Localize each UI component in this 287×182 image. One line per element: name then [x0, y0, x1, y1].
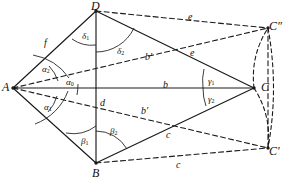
side-d: d — [100, 98, 105, 108]
angle-alpha-0: α0 — [66, 78, 74, 88]
dashed-edge-A-C-double-prime — [13, 28, 268, 88]
arc-beta-1 — [66, 126, 96, 134]
vertex-label-C1: C′ — [269, 145, 280, 157]
vertex-dot-B — [94, 161, 97, 164]
angle-alpha-2: α2 — [42, 65, 50, 75]
vertex-label-A: A — [2, 81, 9, 93]
angle-delta-1: δ1 — [82, 32, 89, 42]
vertex-label-D: D — [91, 0, 100, 12]
geometry-figure: ABCDC″C′fdbb′b′eeccα2α0α1δ1δ2β1β2γ1γ2 — [0, 0, 287, 182]
arc-delta-2 — [96, 28, 134, 52]
vertex-label-C: C — [261, 81, 269, 93]
dashed-edges-layer — [13, 11, 268, 163]
arc-alpha-2b — [33, 55, 69, 78]
figure-canvas — [0, 0, 287, 182]
side-b-prime-upper: b′ — [145, 52, 152, 62]
side-c-inner: c — [166, 130, 170, 140]
angle-alpha-1: α1 — [44, 103, 52, 113]
side-e-outer: e — [188, 12, 192, 22]
solid-edges-layer — [13, 11, 254, 163]
arc-gamma-2 — [203, 88, 206, 106]
arc-alpha-0 — [77, 84, 78, 95]
edge-A-D — [13, 11, 96, 88]
vertex-label-C2: C″ — [269, 20, 282, 32]
side-c-outer: c — [176, 160, 180, 170]
side-b: b — [163, 80, 168, 90]
angle-gamma-1: γ1 — [208, 77, 215, 87]
vertex-label-B: B — [92, 167, 99, 179]
edge-A-B — [13, 88, 96, 163]
dashed-edge-D-C-double-prime — [96, 11, 268, 28]
vertex-dot-A — [11, 86, 14, 89]
side-e-inner: e — [190, 48, 194, 58]
side-f: f — [44, 38, 47, 48]
angle-beta-1: β1 — [81, 137, 88, 147]
angle-delta-2: δ2 — [117, 47, 124, 57]
arc-C-to-C-prime — [254, 88, 269, 148]
angle-beta-2: β2 — [110, 127, 117, 137]
angle-gamma-2: γ2 — [208, 95, 215, 105]
arc-gamma-1 — [203, 69, 204, 88]
dashed-edge-A-C-prime — [13, 88, 268, 148]
arc-C-to-C-double-prime — [253, 28, 268, 88]
side-b-prime-lower: b′ — [141, 106, 148, 116]
vertex-dot-C — [252, 86, 255, 89]
